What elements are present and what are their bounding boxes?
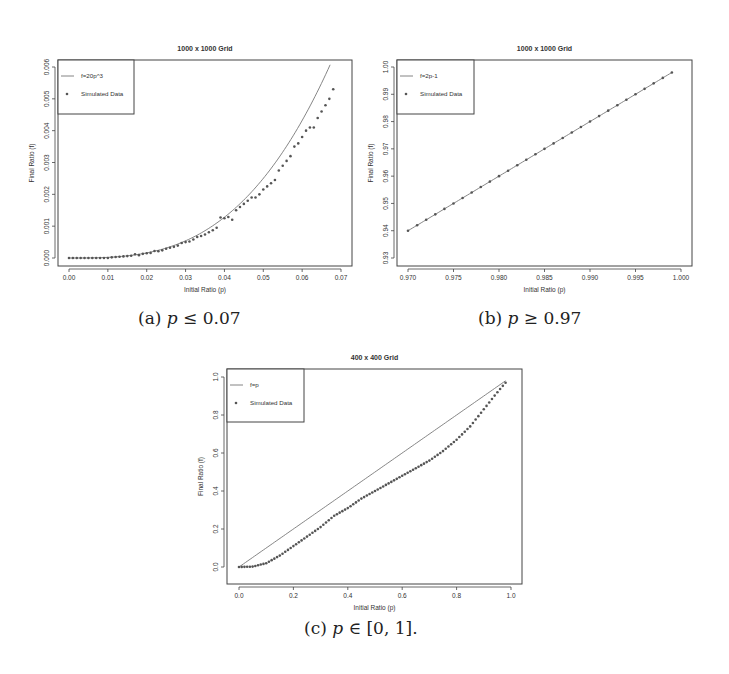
data-point xyxy=(292,545,295,548)
data-point xyxy=(466,428,469,431)
data-point xyxy=(355,501,358,504)
data-point xyxy=(273,557,276,560)
data-point xyxy=(385,484,388,487)
data-point xyxy=(480,411,483,414)
data-point xyxy=(333,514,336,517)
data-point xyxy=(382,485,385,488)
chart-title: 400 x 400 Grid xyxy=(351,354,398,361)
data-point xyxy=(374,490,377,493)
data-point xyxy=(298,541,301,544)
data-point xyxy=(472,422,475,425)
data-point xyxy=(404,473,407,476)
data-point xyxy=(368,493,371,496)
data-point xyxy=(308,533,311,536)
data-point xyxy=(428,459,431,462)
legend-label: f=p xyxy=(250,381,259,388)
data-point xyxy=(357,499,360,502)
data-point xyxy=(409,470,412,473)
x-tick-label: 0.2 xyxy=(289,592,298,599)
data-point xyxy=(322,524,325,527)
x-tick-label: 0.8 xyxy=(452,592,461,599)
data-point xyxy=(458,436,461,439)
y-tick-label: 0.0 xyxy=(212,562,219,571)
data-point xyxy=(488,401,491,404)
data-point xyxy=(268,560,271,563)
data-point xyxy=(270,559,273,562)
data-point xyxy=(344,508,347,511)
data-point xyxy=(474,418,477,421)
y-tick-label: 0.4 xyxy=(212,486,219,495)
data-point xyxy=(289,547,292,550)
data-point xyxy=(406,471,409,474)
x-tick-label: 1.0 xyxy=(506,592,515,599)
data-point xyxy=(393,479,396,482)
data-point xyxy=(246,565,249,568)
data-point xyxy=(442,450,445,453)
data-point xyxy=(265,562,268,565)
data-point xyxy=(398,476,401,479)
y-tick-label: 0.2 xyxy=(212,524,219,533)
data-point xyxy=(295,543,298,546)
data-point xyxy=(447,445,450,448)
data-point xyxy=(243,566,246,569)
data-point xyxy=(415,467,418,470)
data-point xyxy=(417,465,420,468)
data-point xyxy=(436,454,439,457)
data-point xyxy=(477,415,480,418)
data-point xyxy=(251,565,254,568)
y-tick-label: 0.8 xyxy=(212,410,219,419)
data-point xyxy=(463,430,466,433)
x-axis-label: Initial Ratio (p) xyxy=(354,604,396,612)
y-axis-label: Final Ratio (f) xyxy=(197,457,205,496)
data-point xyxy=(485,405,488,408)
data-point xyxy=(363,496,366,499)
legend: f=pSimulated Data xyxy=(227,369,304,422)
caption-c-rel: ∈ [0, 1]. xyxy=(343,618,418,638)
data-point xyxy=(423,462,426,465)
data-point xyxy=(314,530,317,533)
x-axis: 0.00.20.40.60.81.0 xyxy=(234,587,515,599)
data-point xyxy=(395,478,398,481)
data-point xyxy=(336,513,339,516)
data-point xyxy=(502,385,505,388)
data-point xyxy=(401,475,404,478)
data-point xyxy=(439,452,442,455)
data-point xyxy=(496,391,499,394)
caption-c-math: p xyxy=(332,618,343,638)
caption-c: (c) p ∈ [0, 1]. xyxy=(304,618,418,638)
chart-c-group: 400 x 400 Grid0.00.20.40.60.81.0Initial … xyxy=(197,354,522,612)
data-point xyxy=(434,456,437,459)
data-point xyxy=(279,554,282,557)
data-point xyxy=(287,549,290,552)
data-point xyxy=(262,563,265,566)
data-point xyxy=(425,461,428,464)
data-point xyxy=(469,425,472,428)
x-tick-label: 0.4 xyxy=(343,592,352,599)
data-point xyxy=(319,526,322,529)
figure-panel-c: 400 x 400 Grid0.00.20.40.60.81.0Initial … xyxy=(0,0,729,674)
data-point xyxy=(453,441,456,444)
data-point xyxy=(259,563,262,566)
data-point xyxy=(276,556,279,559)
y-tick-label: 0.6 xyxy=(212,448,219,457)
data-point xyxy=(499,388,502,391)
x-tick-label: 0.0 xyxy=(234,592,243,599)
data-point xyxy=(504,381,507,384)
data-point xyxy=(420,464,423,467)
data-point xyxy=(450,443,453,446)
data-point xyxy=(317,528,320,531)
data-point xyxy=(352,503,355,506)
data-point xyxy=(376,488,379,491)
data-point xyxy=(303,537,306,540)
data-point xyxy=(387,482,390,485)
legend-label: Simulated Data xyxy=(250,399,293,406)
data-point xyxy=(366,494,369,497)
data-point xyxy=(483,408,486,411)
legend-point-icon xyxy=(235,402,238,405)
data-point xyxy=(431,457,434,460)
y-axis: 0.00.20.40.60.81.0 xyxy=(212,372,224,571)
data-point xyxy=(347,507,350,510)
data-point xyxy=(284,551,287,554)
data-point xyxy=(249,565,252,568)
caption-c-label: (c) xyxy=(304,618,327,638)
